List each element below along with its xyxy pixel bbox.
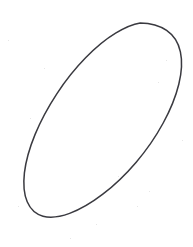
drawing-canvas (0, 0, 193, 247)
ellipse-drawing (0, 0, 193, 247)
paper-background (0, 0, 193, 247)
